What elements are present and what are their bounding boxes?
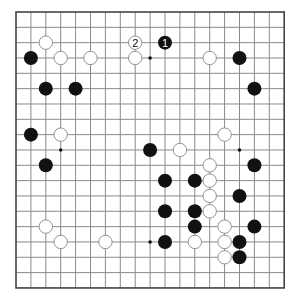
black-stone[interactable] — [158, 235, 172, 249]
white-stone[interactable] — [218, 220, 231, 233]
black-stone[interactable] — [158, 204, 172, 218]
white-stone[interactable] — [84, 51, 97, 64]
black-stone[interactable] — [233, 189, 247, 203]
black-stone[interactable] — [247, 220, 261, 234]
black-stone[interactable] — [158, 174, 172, 188]
black-stone[interactable] — [233, 250, 247, 264]
star-point — [238, 148, 242, 152]
white-stone[interactable] — [173, 143, 186, 156]
star-point — [148, 240, 152, 244]
black-stone[interactable] — [24, 51, 38, 65]
move-number: 1 — [162, 37, 168, 49]
white-stone[interactable]: 2 — [129, 36, 142, 49]
star-point — [148, 56, 152, 60]
go-board-canvas: 12 — [0, 0, 299, 300]
white-stone[interactable] — [39, 36, 52, 49]
black-stone[interactable] — [69, 82, 83, 96]
white-stone[interactable] — [203, 159, 216, 172]
white-stone[interactable] — [203, 189, 216, 202]
black-stone[interactable] — [39, 82, 53, 96]
black-stone[interactable] — [233, 51, 247, 65]
black-stone[interactable] — [247, 158, 261, 172]
black-stone[interactable] — [247, 82, 261, 96]
black-stone[interactable] — [39, 158, 53, 172]
white-stone[interactable] — [203, 51, 216, 64]
white-stone[interactable] — [218, 235, 231, 248]
white-stone[interactable] — [218, 251, 231, 264]
go-board: 12 — [0, 0, 299, 300]
white-stone[interactable] — [54, 128, 67, 141]
white-stone[interactable] — [54, 51, 67, 64]
white-stone[interactable] — [39, 220, 52, 233]
white-stone[interactable] — [203, 205, 216, 218]
black-stone[interactable] — [233, 235, 247, 249]
black-stone[interactable]: 1 — [158, 36, 172, 50]
black-stone[interactable] — [188, 220, 202, 234]
white-stone[interactable] — [99, 235, 112, 248]
white-stone[interactable] — [188, 235, 201, 248]
move-number: 2 — [132, 37, 138, 49]
white-stone[interactable] — [129, 51, 142, 64]
white-stone[interactable] — [203, 174, 216, 187]
white-stone[interactable] — [54, 235, 67, 248]
white-stone[interactable] — [218, 128, 231, 141]
black-stone[interactable] — [188, 174, 202, 188]
star-point — [59, 148, 63, 152]
black-stone[interactable] — [188, 204, 202, 218]
black-stone[interactable] — [24, 128, 38, 142]
black-stone[interactable] — [143, 143, 157, 157]
